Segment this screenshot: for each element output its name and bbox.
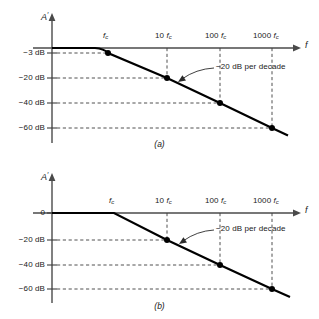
panel-a-marker-100fc bbox=[217, 100, 223, 106]
panel-b-xlabel-100fc-pre: 100 bbox=[205, 196, 219, 205]
panel-a-xlabel-1000fc-pre: 1000 bbox=[253, 31, 271, 40]
panel-b-xlabel-100fc-subscript: c bbox=[223, 199, 226, 205]
panel-a-x-axis-title: f bbox=[305, 41, 308, 50]
panel-b-plot bbox=[0, 160, 319, 319]
panel-a-xlabel-100fc-subscript: c bbox=[223, 34, 226, 40]
panel-b-xlabel-1000fc: 1000 fc bbox=[253, 197, 279, 205]
panel-a-marker-10fc bbox=[164, 75, 170, 81]
panel-b-x-axis-arrowhead bbox=[293, 210, 301, 217]
panel-b-x-axis-title: f bbox=[305, 206, 308, 215]
panel-b-caption: (b) bbox=[0, 301, 319, 311]
panel-a-ylabel-60dB: −60 dB bbox=[6, 124, 45, 132]
panel-b-y-axis-title: A′ bbox=[41, 171, 49, 182]
panel-b-marker-10fc bbox=[164, 237, 170, 243]
panel-a-xlabel-fc-subscript: c bbox=[105, 34, 108, 40]
panel-b-y-axis-arrowhead bbox=[49, 173, 56, 181]
panel-b-xlabel-10fc-pre: 10 bbox=[155, 196, 164, 205]
panel-b-xlabel-10fc: 10 fc bbox=[155, 197, 172, 205]
panel-b-xlabel-1000fc-subscript: c bbox=[276, 199, 279, 205]
panel-a-plot bbox=[0, 0, 319, 160]
panel-b-marker-100fc bbox=[217, 262, 223, 268]
panel-a-xlabel-10fc: 10 fc bbox=[155, 32, 172, 40]
panel-b-marker-1000fc bbox=[269, 286, 275, 292]
panel-b-annotation-slope: −20 dB per decade bbox=[216, 225, 286, 233]
panel-a-ylabel-40dB: −40 dB bbox=[6, 99, 45, 107]
panel-a-annotation-leader-arrowhead bbox=[178, 75, 186, 82]
panel-a-y-axis-arrowhead bbox=[49, 13, 56, 21]
panel-b-xlabel-fc: fc bbox=[109, 197, 114, 205]
panel-b-y-axis-prime: ′ bbox=[47, 171, 48, 178]
panel-a-caption: (a) bbox=[0, 139, 319, 149]
panel-a-annotation-leader bbox=[182, 68, 214, 79]
panel-a-y-axis-prime: ′ bbox=[47, 11, 48, 18]
panel-a-xlabel-1000fc: 1000 fc bbox=[253, 32, 279, 40]
panel-b-ylabel-20dB: −20 dB bbox=[6, 236, 45, 244]
bode-plot-figure: −3 dB −20 dB −40 dB −60 dB A′ f fc 10 fc… bbox=[0, 0, 319, 319]
panel-a-xlabel-100fc: 100 fc bbox=[205, 32, 226, 40]
panel-b-annotation-leader-arrowhead bbox=[179, 237, 187, 244]
panel-a-xlabel-100fc-pre: 100 bbox=[205, 31, 219, 40]
panel-a-annotation-slope: −20 dB per decade bbox=[216, 63, 286, 71]
panel-a-xlabel-1000fc-subscript: c bbox=[276, 34, 279, 40]
panel-a-xlabel-10fc-subscript: c bbox=[169, 34, 172, 40]
panel-b-ylabel-0: 0 bbox=[6, 209, 45, 217]
panel-b-xlabel-100fc: 100 fc bbox=[205, 197, 226, 205]
panel-a-marker-1000fc bbox=[269, 125, 275, 131]
panel-a-ylabel-3dB: −3 dB bbox=[6, 49, 45, 57]
panel-a-x-axis-arrowhead bbox=[293, 45, 301, 52]
panel-a-ylabel-20dB: −20 dB bbox=[6, 74, 45, 82]
panel-b-xlabel-10fc-subscript: c bbox=[169, 199, 172, 205]
panel-b-xlabel-fc-subscript: c bbox=[111, 199, 114, 205]
panel-b-ylabel-40dB: −40 dB bbox=[6, 261, 45, 269]
panel-a-xlabel-fc: fc bbox=[103, 32, 108, 40]
panel-a-marker-fc bbox=[105, 50, 111, 56]
panel-b-xlabel-1000fc-pre: 1000 bbox=[253, 196, 271, 205]
panel-b-annotation-leader bbox=[183, 230, 214, 241]
panel-b-ylabel-60dB: −60 dB bbox=[6, 285, 45, 293]
panel-a-xlabel-10fc-pre: 10 bbox=[155, 31, 164, 40]
panel-a-y-axis-title: A′ bbox=[41, 11, 49, 22]
